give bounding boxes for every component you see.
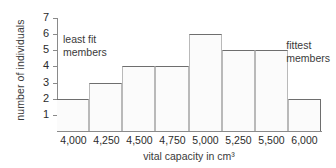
bar (222, 50, 255, 131)
annotation-fittest: fittest members (286, 39, 330, 64)
y-axis-tick-label: 7 (43, 11, 49, 24)
bar (155, 66, 188, 131)
y-axis-tick-label: 3 (43, 76, 49, 89)
x-axis-line (57, 131, 322, 132)
x-axis-tick-label: 4,750 (156, 133, 189, 147)
x-axis-tick-label: 4,500 (123, 133, 156, 147)
x-axis-tick-label: 4,250 (90, 133, 123, 147)
x-axis-tick-label: 5,000 (189, 133, 222, 147)
y-axis-title: number of individuals (14, 0, 30, 140)
x-axis-tick-labels: 4,0004,2504,5004,7505,0005,2505,5006,000 (57, 133, 321, 147)
bar (189, 34, 222, 131)
y-axis-tick-label: 5 (43, 43, 49, 56)
y-axis-tick-label: 1 (43, 108, 49, 121)
bar (89, 83, 122, 131)
x-axis-tick-label: 5,250 (222, 133, 255, 147)
y-axis-tick-label: 4 (43, 59, 49, 72)
y-axis-tick-label: 2 (43, 92, 49, 105)
x-axis-title: vital capacity in cm³ (57, 150, 321, 162)
bar (57, 99, 89, 131)
histogram-chart: number of individuals 7654321 4,0004,250… (0, 0, 336, 168)
annotation-least-fit: least fit members (63, 33, 107, 58)
bar (122, 66, 155, 131)
x-axis-tick-label: 5,500 (255, 133, 288, 147)
x-axis-tick-label: 6,000 (288, 133, 321, 147)
y-axis-tick-label: 6 (43, 27, 49, 40)
bar (255, 50, 288, 131)
bar (288, 99, 321, 131)
x-axis-tick-label: 4,000 (57, 133, 90, 147)
